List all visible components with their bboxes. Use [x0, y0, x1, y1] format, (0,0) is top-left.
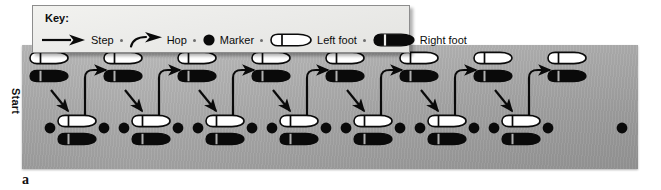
step-arrow — [421, 90, 438, 111]
bottom-footprint-row — [45, 115, 628, 144]
footprint-pair — [474, 52, 512, 81]
hop-arrow — [307, 70, 328, 121]
step-arrow — [199, 90, 216, 111]
key-label-step: Step — [91, 34, 114, 46]
key-item-hop: Hop — [129, 29, 187, 51]
marker-dot — [99, 123, 110, 134]
key-label-right-foot: Right foot — [420, 34, 467, 46]
key-label-marker: Marker — [220, 34, 254, 46]
footprint-pair — [326, 52, 364, 81]
key-item-left-foot: Left foot — [269, 29, 357, 51]
marker-dot — [247, 123, 258, 134]
key-item-marker: Marker — [202, 29, 254, 51]
footprint-cluster — [341, 115, 406, 144]
marker-dot — [321, 123, 332, 134]
marker-dot-icon — [202, 33, 216, 47]
footprint-sequence-graphic — [22, 45, 638, 169]
curved-hop-arrow-icon — [129, 32, 163, 48]
footprint-cluster — [193, 115, 258, 144]
footprint-pair — [548, 52, 586, 81]
step-arrow — [347, 90, 364, 111]
marker-dot — [173, 123, 184, 134]
key-separator-dot — [363, 39, 366, 42]
step-arrow — [125, 90, 142, 111]
hop-arrow — [85, 70, 106, 121]
footprint-pair — [178, 52, 216, 81]
straight-arrow-icon — [41, 33, 87, 47]
figure-label: a — [22, 172, 29, 188]
footprint-pair — [104, 52, 142, 81]
step-arrow — [495, 90, 512, 111]
key-legend-box: Key: Step Hop Marker — [32, 5, 410, 53]
footprint-cluster — [489, 115, 554, 144]
key-title: Key: — [45, 12, 69, 24]
footprint-pair — [252, 52, 290, 81]
footprint-cluster — [119, 115, 184, 144]
hop-arrow — [381, 70, 402, 121]
footprint-pair — [30, 52, 68, 81]
marker-dot — [543, 123, 554, 134]
marker-dot — [267, 123, 278, 134]
footprint-cluster — [267, 115, 332, 144]
marker-dot — [489, 123, 500, 134]
hopscotch-diagram-panel — [22, 45, 638, 169]
right-foot-filled-icon — [372, 33, 416, 47]
left-foot-outline-icon — [269, 33, 313, 47]
key-item-step: Step — [41, 29, 114, 51]
marker-dot — [415, 123, 426, 134]
marker-dot — [469, 123, 480, 134]
start-label: Start — [10, 88, 22, 114]
footprint-cluster — [45, 115, 110, 144]
key-label-hop: Hop — [167, 34, 187, 46]
footprint-pair — [400, 52, 438, 81]
step-arrow — [273, 90, 290, 111]
marker-dot — [119, 123, 130, 134]
hop-arrow — [159, 70, 180, 121]
step-arrow-group — [51, 90, 512, 111]
key-separator-dot — [120, 39, 123, 42]
hop-arrow — [455, 70, 476, 121]
trailing-marker-dot — [617, 123, 628, 134]
key-items-row: Step Hop Marker Left foot — [41, 29, 467, 51]
step-arrow — [51, 90, 68, 111]
key-item-right-foot: Right foot — [372, 29, 467, 51]
key-label-left-foot: Left foot — [317, 34, 357, 46]
marker-dot — [341, 123, 352, 134]
key-separator-dot — [193, 39, 196, 42]
footprint-cluster — [415, 115, 480, 144]
key-separator-dot — [260, 39, 263, 42]
marker-dot — [193, 123, 204, 134]
hop-arrow — [233, 70, 254, 121]
marker-dot — [45, 123, 56, 134]
marker-dot — [395, 123, 406, 134]
hop-arrow — [529, 70, 550, 121]
